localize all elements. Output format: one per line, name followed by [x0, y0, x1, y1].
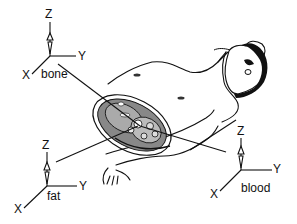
- bone-x-label: X: [22, 69, 30, 81]
- blood-x-label: X: [210, 188, 218, 200]
- blood-label: blood: [241, 182, 270, 194]
- fat-y-label: Y: [79, 180, 87, 192]
- nipple-right: [178, 97, 185, 100]
- fat-x-label: X: [14, 203, 22, 215]
- nipple-left: [134, 74, 141, 77]
- shoulder-outline: [222, 52, 238, 122]
- figure: Z Y X bone Z Y X fat Z Y X blood: [0, 0, 297, 224]
- hand-outline: [103, 168, 130, 185]
- fat-z-label: Z: [42, 139, 49, 151]
- blood-y-label: Y: [273, 163, 281, 175]
- bone-y-label: Y: [78, 50, 86, 62]
- fat-label: fat: [47, 190, 60, 202]
- bone-label: bone: [41, 68, 68, 80]
- torso-outline: [108, 52, 226, 84]
- blood-pointer-cross: [190, 120, 236, 150]
- bone-z-label: Z: [45, 8, 52, 20]
- cross-section: [83, 82, 182, 167]
- blood-z-label: Z: [237, 125, 244, 137]
